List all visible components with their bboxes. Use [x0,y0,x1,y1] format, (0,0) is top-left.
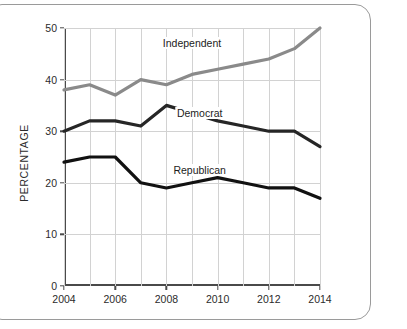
y-tick-label: 50 [45,22,57,34]
x-tick-label: 2012 [257,293,280,305]
chart-figure: PERCENTAGE 01020304050 20042006200820102… [0,0,407,329]
series-label-republican: Republican [171,164,228,176]
x-tick-label: 2014 [308,293,331,305]
y-axis-title: PERCENTAGE [18,124,30,202]
y-tick-label: 30 [45,125,57,137]
x-tick-label: 2008 [155,293,178,305]
x-tick-label: 2004 [52,293,75,305]
x-tick-label: 2010 [206,293,229,305]
series-label-democrat: Democrat [175,107,225,119]
x-tick-mark [166,286,167,290]
y-tick-label: 20 [45,177,57,189]
x-tick-mark [114,286,115,290]
series-lines [64,28,320,286]
y-tick-label: 10 [45,228,57,240]
x-tick-mark [319,286,320,290]
y-tick-label: 40 [45,74,57,86]
x-tick-mark [268,286,269,290]
y-tick-label: 0 [51,280,57,292]
plot-area: 01020304050 200420062008201020122014 Ind… [64,28,320,286]
x-tick-mark [217,286,218,290]
series-label-independent: Independent [161,37,223,49]
vertical-gridline [320,28,321,286]
x-tick-mark [63,286,64,290]
x-tick-label: 2006 [104,293,127,305]
